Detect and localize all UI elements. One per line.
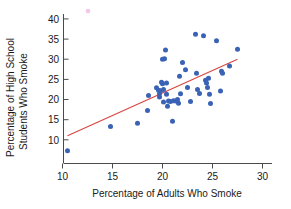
data-point (161, 87, 166, 92)
y-tick-label-10: 10 (48, 135, 60, 146)
x-axis-tick-labels: 10 15 20 25 30 (57, 171, 269, 182)
x-tick-label-20: 20 (157, 171, 169, 182)
regression-line (68, 59, 238, 136)
y-tick-label-25: 25 (48, 74, 60, 85)
y-tick-label-15: 15 (48, 114, 60, 125)
y-axis-tick-labels: 40 35 30 25 20 15 10 (48, 14, 60, 146)
data-point (185, 85, 190, 90)
data-point (157, 95, 162, 100)
y-axis: 40 35 30 25 20 15 10 Percentage of High … (5, 14, 69, 163)
data-point (177, 74, 182, 79)
x-tick-label-10: 10 (57, 171, 69, 182)
data-point (170, 119, 175, 124)
x-axis-ticks (63, 164, 263, 169)
chart-canvas: 40 35 30 25 20 15 10 Percentage of High … (0, 0, 291, 209)
x-axis: 10 15 20 25 30 Percentage of Adults Who … (57, 164, 272, 200)
data-point (161, 99, 166, 104)
data-point (146, 93, 151, 98)
x-tick-label-25: 25 (207, 171, 219, 182)
data-point (180, 60, 185, 65)
x-tick-label-30: 30 (257, 171, 269, 182)
y-tick-label-40: 40 (48, 14, 60, 25)
data-point (208, 101, 213, 106)
data-point (183, 67, 188, 72)
y-axis-title-line1: Percentage of High School (5, 38, 16, 157)
data-point (165, 104, 170, 109)
y-tick-label-20: 20 (48, 94, 60, 105)
data-point (188, 99, 193, 104)
y-axis-title-line2: Students Who Smoke (18, 53, 29, 150)
scatter-plot-figure: 40 35 30 25 20 15 10 Percentage of High … (0, 0, 291, 209)
data-point (205, 85, 210, 90)
scatter-points-group (65, 32, 240, 153)
data-point (176, 101, 181, 106)
y-tick-label-30: 30 (48, 54, 60, 65)
data-point (197, 91, 202, 96)
x-axis-title: Percentage of Adults Who Smoke (92, 188, 242, 199)
data-point (220, 71, 225, 76)
data-point (218, 89, 223, 94)
data-point (193, 32, 198, 37)
data-point (108, 124, 113, 129)
data-point (194, 71, 199, 76)
data-point (204, 80, 209, 85)
data-point (206, 76, 211, 81)
data-point (164, 80, 169, 85)
data-point (214, 38, 219, 43)
data-point (162, 56, 167, 61)
data-point (201, 33, 206, 38)
data-point (163, 47, 168, 52)
data-point (145, 108, 150, 113)
x-tick-label-15: 15 (107, 171, 119, 182)
data-point (135, 121, 140, 126)
data-point (164, 92, 169, 97)
y-axis-ticks (64, 19, 69, 140)
data-point (207, 92, 212, 97)
data-point (178, 91, 183, 96)
data-point (235, 47, 240, 52)
y-tick-label-35: 35 (48, 34, 60, 45)
data-point (65, 148, 70, 153)
data-point (227, 64, 232, 69)
stray-pink-dot-icon (86, 9, 91, 14)
